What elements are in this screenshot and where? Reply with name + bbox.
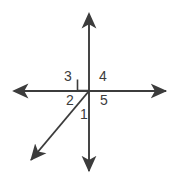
angle-label-4: 4 (99, 69, 107, 83)
angle-label-2: 2 (66, 93, 74, 107)
angle-label-1: 1 (80, 107, 88, 121)
angle-label-5: 5 (100, 93, 108, 107)
geometry-canvas (0, 0, 180, 181)
diagonal-ray (31, 91, 89, 160)
angle-diagram: 3 4 2 5 1 (0, 0, 180, 181)
right-angle-marker (78, 80, 89, 91)
angle-label-3: 3 (64, 69, 72, 83)
